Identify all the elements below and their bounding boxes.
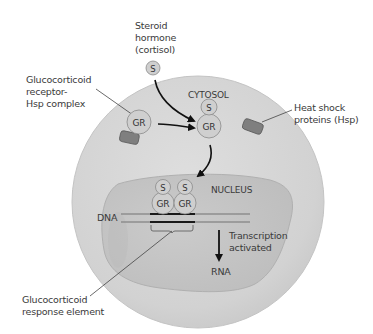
label-gr-hsp-complex: Glucocorticoid receptor- Hsp complex	[26, 74, 91, 110]
label-dna: DNA	[97, 212, 117, 224]
svg-text:GR: GR	[178, 199, 191, 209]
svg-text:S: S	[206, 103, 211, 113]
label-transcription-activated: Transcription activated	[229, 230, 288, 254]
label-rna: RNA	[211, 266, 231, 278]
label-heat-shock-proteins: Heat shock proteins (Hsp)	[294, 102, 358, 126]
label-cytosol: CYTOSOL	[188, 89, 229, 101]
svg-text:S: S	[150, 64, 155, 74]
diagram-canvas: S GR S GR	[0, 0, 373, 334]
label-glucocorticoid-response-element: Glucocorticoid response element	[22, 294, 104, 318]
steroid-hormone-outside: S	[146, 61, 160, 75]
svg-text:S: S	[160, 183, 165, 193]
label-nucleus: NUCLEUS	[211, 184, 252, 196]
svg-text:S: S	[182, 183, 187, 193]
label-steroid-hormone: Steroid hormone (cortisol)	[135, 20, 176, 56]
svg-text:GR: GR	[156, 199, 169, 209]
svg-text:GR: GR	[202, 122, 215, 132]
diagram-svg: S GR S GR	[0, 0, 373, 334]
svg-text:GR: GR	[132, 118, 145, 128]
